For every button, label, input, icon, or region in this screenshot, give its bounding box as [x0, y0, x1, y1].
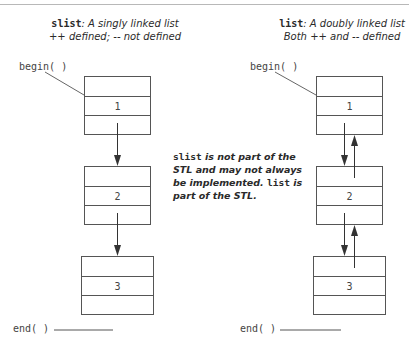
list-caption: list: A doubly linked list Both ++ and -…	[275, 17, 409, 43]
slist-node-1: 1	[84, 76, 151, 135]
node-value-cell: 2	[317, 187, 382, 207]
stl-note: slist is not part of the STL and may not…	[173, 150, 313, 202]
slist-caption: slist: A singly linked list ++ defined; …	[40, 17, 190, 43]
node-pointer-cell	[317, 167, 382, 187]
slist-begin-pointer	[45, 72, 84, 95]
list-begin-pointer	[275, 72, 316, 95]
slist-node-2: 2	[84, 166, 151, 225]
list-node-2: 2	[316, 166, 383, 225]
list-caption-line1: list: A doubly linked list	[275, 17, 409, 30]
slist-code: slist	[51, 18, 81, 29]
node-pointer-cell	[85, 116, 150, 136]
note-slist-code: slist	[173, 151, 202, 162]
node-value-cell: 1	[317, 97, 382, 117]
list-end-label: end( )	[240, 323, 276, 334]
node-value-cell: 3	[314, 277, 385, 297]
node-pointer-cell	[314, 296, 385, 316]
note-list-code: list	[267, 177, 290, 188]
slist-end-label: end( )	[13, 323, 49, 334]
node-pointer-cell	[85, 167, 150, 187]
node-pointer-cell	[317, 206, 382, 226]
node-value-cell: 1	[85, 97, 150, 117]
slist-begin-label: begin( )	[19, 61, 67, 72]
node-value-cell: 3	[82, 277, 153, 297]
node-pointer-cell	[314, 257, 385, 277]
slist-caption-line1: slist: A singly linked list	[40, 17, 190, 30]
node-pointer-cell	[85, 77, 150, 97]
node-pointer-cell	[82, 257, 153, 277]
node-pointer-cell	[317, 116, 382, 136]
list-caption-line2: Both ++ and -- defined	[275, 30, 409, 43]
list-code: list	[279, 18, 303, 29]
slist-caption-line2: ++ defined; -- not defined	[40, 30, 190, 43]
node-value-cell: 2	[85, 187, 150, 207]
list-begin-label: begin( )	[250, 61, 298, 72]
node-pointer-cell	[85, 206, 150, 226]
node-pointer-cell	[82, 296, 153, 316]
list-node-3: 3	[313, 256, 386, 315]
slist-node-3: 3	[81, 256, 154, 315]
list-node-1: 1	[316, 76, 383, 135]
top-rule	[0, 4, 409, 5]
node-pointer-cell	[317, 77, 382, 97]
